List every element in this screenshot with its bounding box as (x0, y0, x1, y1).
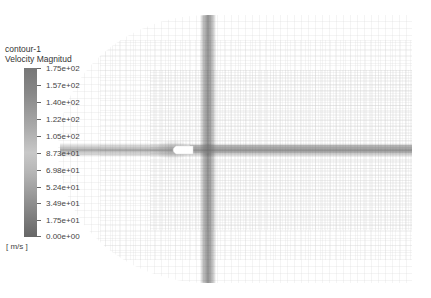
tick-mark (37, 85, 41, 86)
tick-mark (37, 220, 41, 221)
tick-label: 1.75e+01 (46, 216, 80, 225)
tick-mark (37, 136, 41, 137)
tick-mark (37, 102, 41, 103)
tick-mark (37, 153, 41, 154)
legend-units: [ m/s ] (6, 242, 28, 251)
tick-label: 0.00e+00 (46, 232, 80, 241)
legend-title: contour-1 (5, 44, 41, 54)
tick-label: 5.24e+01 (46, 183, 80, 192)
tick-label: 1.75e+02 (46, 64, 80, 73)
tick-label: 8.73e+01 (46, 149, 80, 158)
tick-mark (37, 236, 41, 237)
tick-label: 1.22e+02 (46, 115, 80, 124)
legend-variable: Velocity Magnitud (5, 54, 72, 64)
tick-mark (37, 187, 41, 188)
tick-label: 1.05e+02 (46, 132, 80, 141)
tick-label: 1.57e+02 (46, 81, 80, 90)
tick-mark (37, 170, 41, 171)
tick-mark (37, 203, 41, 204)
tick-mark (37, 119, 41, 120)
tick-label: 6.98e+01 (46, 166, 80, 175)
colorbar (24, 68, 37, 237)
body-object (173, 146, 193, 154)
tick-label: 3.49e+01 (46, 199, 80, 208)
tick-mark (37, 68, 41, 69)
graphics-viewport[interactable]: contour-1 Velocity Magnitud 1.75e+02 1.5… (0, 0, 431, 298)
tick-label: 1.40e+02 (46, 98, 80, 107)
